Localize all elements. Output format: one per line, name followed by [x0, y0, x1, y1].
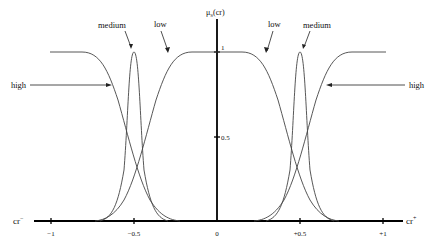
- annotation-low-left: low: [154, 19, 168, 29]
- annotation-medium-right: medium: [303, 20, 331, 30]
- arrowhead-icon: [326, 83, 332, 87]
- curve-medium-right: [266, 52, 334, 221]
- arrowhead-icon: [129, 44, 133, 49]
- arrowhead-icon: [106, 83, 112, 87]
- x-axis-left-label: cr−: [13, 215, 24, 226]
- curve-medium-left: [100, 52, 168, 221]
- annotation-medium-left: medium: [98, 20, 126, 30]
- arrowhead-icon: [302, 44, 306, 49]
- x-tick-label: −1: [47, 230, 55, 238]
- membership-function-diagram: −1 −0.5 0 +0.5 +1 0.5 1 cr− cr+ μS(cr) m…: [0, 0, 434, 245]
- annotation-high-left: high: [11, 80, 27, 90]
- arrowhead-icon: [165, 47, 170, 53]
- curve-high-left: [50, 52, 180, 221]
- x-tick-label: +0.5: [294, 230, 307, 238]
- y-tick-label: 1: [221, 44, 225, 52]
- x-tick-label: 0: [215, 230, 219, 238]
- arrowhead-icon: [264, 47, 269, 53]
- y-axis-label: μS(cr): [206, 8, 225, 18]
- x-tick-label: −0.5: [128, 230, 141, 238]
- annotation-high-right: high: [409, 80, 425, 90]
- annotation-low-right: low: [268, 19, 282, 29]
- x-tick-label: +1: [379, 230, 387, 238]
- arrow-medium-right: [304, 31, 310, 47]
- x-axis-right-label: cr+: [406, 215, 417, 226]
- y-tick-label: 0.5: [221, 134, 230, 142]
- curve-high-right: [254, 52, 386, 221]
